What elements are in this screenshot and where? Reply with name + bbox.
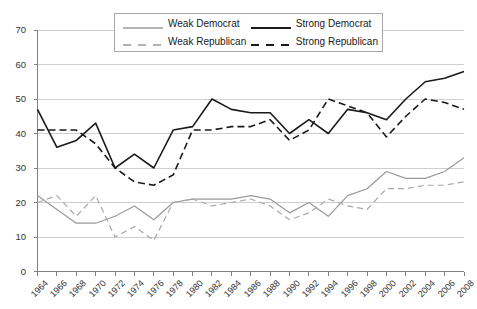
y-axis-label-50: 50: [2, 93, 26, 104]
y-axis-label-10: 10: [2, 231, 26, 242]
y-axis-label-30: 30: [2, 162, 26, 173]
legend-label-weak-democrat: Weak Democrat: [168, 18, 240, 29]
series-line-weak-democrat: [38, 158, 465, 224]
line-chart: 010203040506070 196419661968197019721974…: [0, 0, 477, 309]
legend-swatch-strong-democrat: [251, 19, 291, 29]
y-axis-label-60: 60: [2, 59, 26, 70]
legend-swatch-strong-republican: [251, 36, 291, 46]
legend-label-strong-democrat: Strong Democrat: [296, 18, 372, 29]
legend-entry-weak-republican: Weak Republican: [119, 36, 247, 47]
legend-entry-strong-democrat: Strong Democrat: [247, 18, 378, 29]
legend-swatch-weak-republican: [123, 36, 163, 46]
series-line-strong-republican: [38, 99, 465, 185]
chart-legend: Weak Democrat Strong Democrat Weak Repub…: [114, 13, 383, 52]
legend-swatch-weak-democrat: [123, 19, 163, 29]
series-line-strong-democrat: [38, 71, 465, 168]
y-axis-label-20: 20: [2, 197, 26, 208]
legend-label-strong-republican: Strong Republican: [296, 36, 378, 47]
y-axis-label-70: 70: [2, 24, 26, 35]
legend-entry-weak-democrat: Weak Democrat: [119, 18, 247, 29]
legend-label-weak-republican: Weak Republican: [168, 36, 246, 47]
y-axis-label-0: 0: [2, 266, 26, 277]
series-line-weak-republican: [38, 182, 465, 241]
y-axis-label-40: 40: [2, 128, 26, 139]
legend-entry-strong-republican: Strong Republican: [247, 36, 378, 47]
